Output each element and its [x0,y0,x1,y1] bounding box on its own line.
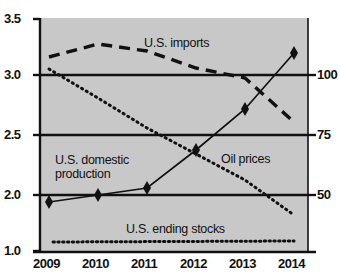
series-label-oil-prices: Oil prices [221,152,270,166]
x-axis-tick-label-2011: 2011 [131,256,157,271]
y-axis-tick-label-1.0: 1.0 [4,243,21,258]
series-label-us-ending-stocks: U.S. ending stocks [126,222,225,236]
series-label-us-imports: U.S. imports [144,36,209,50]
y-axis-tick-label-3.5: 3.5 [4,11,21,26]
y-axis-tick-label-2.0: 2.0 [4,187,21,202]
chart-container: 3.5 3.0 2.5 2.0 1.0 100 75 50 2009 2010 … [0,0,340,280]
y2-axis-tick-label-50: 50 [317,187,330,202]
x-axis-tick-label-2010: 2010 [82,256,109,271]
x-axis-tick-label-2013: 2013 [229,256,256,271]
series-label-us-domestic-production: U.S. domestic production [55,153,129,181]
y2-axis-ticks [308,75,316,195]
y-axis-tick-label-3.0: 3.0 [4,67,21,82]
x-axis-tick-label-2012: 2012 [180,256,207,271]
series-label-line-1: U.S. domestic [55,153,129,167]
series-label-line-2: production [55,167,129,181]
x-axis-tick-label-2009: 2009 [33,256,60,271]
y2-axis-tick-label-75: 75 [317,127,330,142]
y2-axis-tick-label-100: 100 [317,67,337,82]
x-axis-tick-label-2014: 2014 [278,256,305,271]
y-axis-tick-label-2.5: 2.5 [4,127,21,142]
